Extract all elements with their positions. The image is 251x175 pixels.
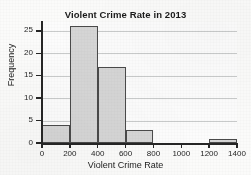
y-tick-label: 10 [15,93,33,102]
y-tick-mark [36,75,41,76]
x-tick-label: 800 [138,149,168,158]
y-tick-mark [36,142,41,143]
x-tick-label: 1400 [222,149,251,158]
chart-title: Violent Crime Rate in 2013 [0,9,251,20]
x-tick-label: 200 [55,149,85,158]
x-tick-mark [125,144,126,148]
y-tick-label: 15 [15,70,33,79]
x-tick-label: 1000 [166,149,196,158]
histogram-bar [42,125,70,143]
x-tick-mark [41,144,42,148]
y-tick-mark [36,30,41,31]
y-tick-mark [36,120,41,121]
x-tick-mark [69,144,70,148]
y-tick-mark [36,97,41,98]
y-tick-label: 0 [15,138,33,147]
y-axis-label: Frequency [6,30,16,100]
x-tick-label: 0 [27,149,57,158]
y-tick-label: 25 [15,25,33,34]
x-tick-mark [153,144,154,148]
x-tick-mark [181,144,182,148]
y-axis-line [41,21,43,144]
histogram-bar [126,130,154,143]
x-tick-label: 400 [83,149,113,158]
x-tick-label: 600 [111,149,141,158]
plot-area [42,22,237,143]
x-tick-label: 1200 [194,149,224,158]
histogram-figure: Violent Crime Rate in 2013 0510152025 02… [0,0,251,175]
x-tick-mark [97,144,98,148]
x-tick-mark [236,144,237,148]
x-axis-label: Violent Crime Rate [0,160,251,170]
histogram-bar [98,67,126,143]
y-tick-label: 5 [15,115,33,124]
y-tick-mark [36,53,41,54]
y-tick-label: 20 [15,48,33,57]
histogram-bar [70,26,98,143]
x-tick-mark [208,144,209,148]
